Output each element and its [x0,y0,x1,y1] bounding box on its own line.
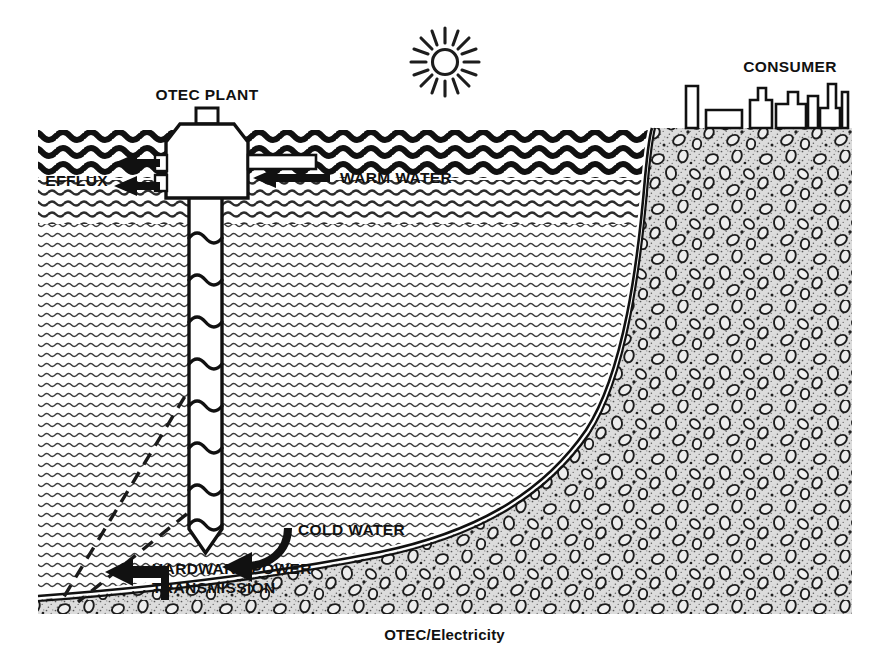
warm-water-label: WARM WATER [340,169,452,186]
otec-plant-label: OTEC PLANT [155,86,258,103]
sun-icon [411,28,479,96]
otec-diagram: CONSUMER OTEC PLANT WARM WATER [0,0,889,672]
city-skyline-icon [686,84,848,128]
hardware-power-label: HARDWARE POWER [152,560,312,577]
efflux-label: EFFLUX [45,172,108,189]
warm-water-intake-pipe [248,155,316,169]
otec-plant-icon [166,108,248,198]
cold-water-label: COLD WATER [298,521,405,538]
transmission-label: TRANSMISSION [152,579,276,596]
otec-diagram-svg: CONSUMER OTEC PLANT WARM WATER [0,0,889,672]
figure-caption: OTEC/Electricity [0,626,889,643]
consumer-label: CONSUMER [743,58,837,75]
cold-water-pipe [189,196,222,553]
